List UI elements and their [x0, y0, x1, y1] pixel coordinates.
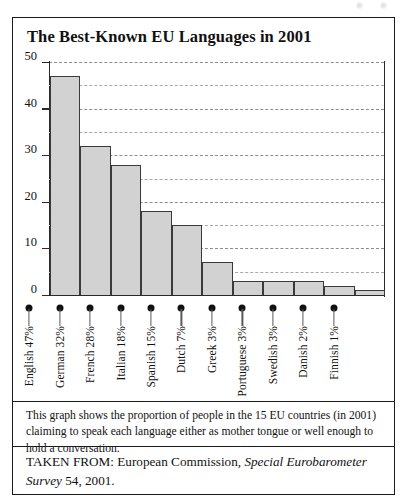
- x-tick-marker: [136, 296, 166, 326]
- y-tick-label: 10: [25, 235, 38, 250]
- x-tick-marker: [14, 296, 44, 326]
- x-label-cell: Portuguese 3%: [227, 326, 257, 408]
- x-tick-stem: [181, 309, 182, 326]
- bar: [324, 286, 354, 295]
- x-tick-marker: [258, 296, 288, 326]
- scan-artifact-left: [356, 2, 363, 9]
- plot-area: 01020304050: [49, 63, 384, 296]
- x-label-cell: French 28%: [75, 326, 105, 408]
- x-label-cell: Swedish 3%: [258, 326, 288, 408]
- x-label-cell: Italian 18%: [105, 326, 135, 408]
- x-axis-labels: English 47%German 32%French 28%Italian 1…: [14, 326, 349, 408]
- bar: [202, 262, 232, 295]
- x-tick-label: French 28%: [84, 326, 96, 383]
- x-tick-stem: [303, 309, 304, 326]
- x-axis-markers: [14, 296, 349, 326]
- x-tick-label: Italian 18%: [115, 326, 127, 380]
- x-tick-stem: [120, 309, 121, 326]
- x-tick-marker: [197, 296, 227, 326]
- bar: [263, 281, 293, 295]
- x-label-cell: German 32%: [44, 326, 74, 408]
- x-tick-label: Portuguese 3%: [236, 326, 248, 397]
- y-tick: [42, 62, 50, 63]
- source-prefix: TAKEN FROM: European Commission,: [26, 454, 244, 469]
- y-tick-label: 40: [25, 95, 38, 110]
- y-tick: [42, 155, 50, 156]
- figure-source: TAKEN FROM: European Commission, Special…: [26, 452, 382, 490]
- x-tick-stem: [150, 309, 151, 326]
- x-label-cell: Danish 2%: [288, 326, 318, 408]
- x-tick-label: Spanish 15%: [145, 326, 157, 387]
- x-tick-label: German 32%: [54, 326, 66, 388]
- x-label-cell: Dutch 7%: [166, 326, 196, 408]
- x-tick-marker: [75, 296, 105, 326]
- bar: [233, 281, 263, 295]
- x-tick-marker: [227, 296, 257, 326]
- source-divider: [13, 446, 394, 447]
- x-tick-stem: [90, 309, 91, 326]
- x-tick-marker: [44, 296, 74, 326]
- x-tick-marker: [319, 296, 349, 326]
- x-tick-marker: [105, 296, 135, 326]
- bar: [80, 146, 110, 295]
- figure-caption: This graph shows the proportion of peopl…: [26, 408, 382, 457]
- x-tick-label: English 47%: [23, 326, 35, 386]
- x-tick-label: Swedish 3%: [267, 326, 279, 384]
- bar: [141, 211, 171, 295]
- scan-artifact-right: [380, 2, 387, 9]
- x-tick-marker: [288, 296, 318, 326]
- x-label-cell: English 47%: [14, 326, 44, 408]
- source-suffix: 54, 2001.: [62, 473, 115, 488]
- x-tick-label: Greek 3%: [206, 326, 218, 373]
- x-tick-stem: [29, 309, 30, 326]
- x-tick-stem: [59, 309, 60, 326]
- x-label-cell: Finnish 1%: [319, 326, 349, 408]
- y-tick-label: 30: [25, 142, 38, 157]
- x-tick-stem: [272, 309, 273, 326]
- y-tick: [42, 108, 50, 109]
- chart-title: The Best-Known EU Languages in 2001: [27, 27, 312, 47]
- x-tick-label: Danish 2%: [297, 326, 309, 378]
- y-tick-label: 50: [25, 49, 38, 64]
- y-tick-label: 0: [31, 282, 37, 297]
- bar: [111, 165, 141, 295]
- figure-frame: The Best-Known EU Languages in 2001 0102…: [12, 17, 395, 495]
- caption-divider: [13, 401, 394, 402]
- x-tick-stem: [242, 309, 243, 326]
- bar: [355, 290, 385, 295]
- bar: [172, 225, 202, 295]
- bar-series: [50, 62, 385, 295]
- x-label-cell: Greek 3%: [197, 326, 227, 408]
- x-tick-marker: [166, 296, 196, 326]
- y-tick: [42, 202, 50, 203]
- bar: [50, 76, 80, 295]
- x-tick-label: Finnish 1%: [328, 326, 340, 380]
- x-tick-stem: [211, 309, 212, 326]
- x-label-cell: Spanish 15%: [136, 326, 166, 408]
- bar: [294, 281, 324, 295]
- y-tick-label: 20: [25, 188, 38, 203]
- x-tick-stem: [333, 309, 334, 326]
- y-tick: [42, 248, 50, 249]
- x-tick-label: Dutch 7%: [175, 326, 187, 373]
